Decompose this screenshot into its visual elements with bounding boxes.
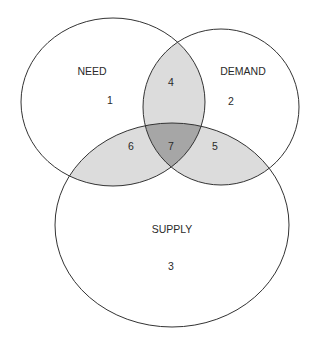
region-7: 7 (168, 140, 174, 152)
region-1: 1 (107, 94, 113, 106)
region-6: 6 (128, 140, 134, 152)
venn-diagram: NEED DEMAND SUPPLY 1 2 3 4 5 6 7 (0, 0, 312, 339)
demand-label: DEMAND (220, 65, 266, 77)
region-4: 4 (168, 76, 174, 88)
supply-label: SUPPLY (152, 223, 193, 235)
region-2: 2 (228, 95, 234, 107)
region-5: 5 (212, 140, 218, 152)
need-label: NEED (77, 65, 107, 77)
region-3: 3 (168, 260, 174, 272)
